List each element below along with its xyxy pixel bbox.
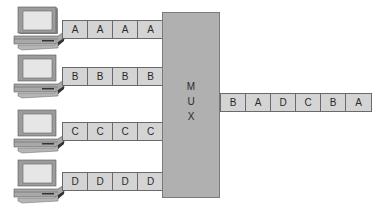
computer-icon [12, 52, 67, 100]
packet-cell: A [63, 21, 88, 38]
packet-cell: B [221, 94, 246, 111]
packet-cell: B [138, 68, 163, 85]
output-stream: B A D C B A [220, 93, 372, 112]
packet-cell: D [271, 94, 296, 111]
packet-cell: C [63, 123, 88, 140]
packet-cell: C [296, 94, 321, 111]
packet-cell: C [138, 123, 163, 140]
computer-icon [12, 157, 67, 205]
computer-icon [12, 4, 67, 52]
multiplexer-box: M U X [162, 12, 220, 198]
mux-label: M U X [163, 79, 219, 124]
packet-cell: A [88, 21, 113, 38]
packet-cell: A [346, 94, 371, 111]
packet-cell: B [88, 68, 113, 85]
packet-cell: D [88, 173, 113, 190]
multiplexing-diagram: A A A A B B B B C C C C [0, 0, 385, 212]
packet-cell: C [113, 123, 138, 140]
packet-cell: C [88, 123, 113, 140]
input-stream-b: B B B B [62, 67, 164, 86]
packet-cell: B [113, 68, 138, 85]
packet-cell: D [63, 173, 88, 190]
packet-cell: A [113, 21, 138, 38]
packet-cell: B [63, 68, 88, 85]
mux-letter: M [187, 79, 195, 94]
input-stream-c: C C C C [62, 122, 164, 141]
packet-cell: A [138, 21, 163, 38]
packet-cell: D [113, 173, 138, 190]
mux-letter: X [188, 109, 195, 124]
packet-cell: A [246, 94, 271, 111]
input-stream-d: D D D D [62, 172, 164, 191]
packet-cell: D [138, 173, 163, 190]
computer-icon [12, 107, 67, 155]
packet-cell: B [321, 94, 346, 111]
input-stream-a: A A A A [62, 20, 164, 39]
mux-letter: U [187, 94, 194, 109]
